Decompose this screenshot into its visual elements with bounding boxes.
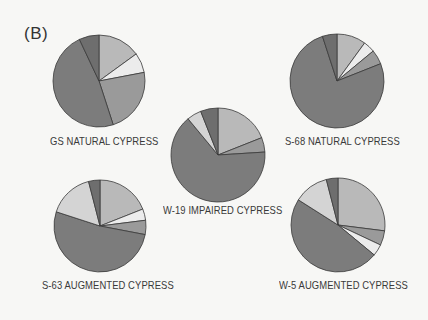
pie-chart	[53, 35, 145, 127]
pie-chart	[54, 180, 146, 272]
chart-title-s63-augmented: S-63 AUGMENTED CYPRESS	[42, 279, 174, 291]
chart-title-w5-augmented: W-5 AUGMENTED CYPRESS	[279, 279, 408, 291]
pie-chart	[171, 108, 265, 202]
pie-slice	[338, 178, 385, 231]
chart-title-w19-impaired: W-19 IMPAIRED CYPRESS	[163, 204, 282, 216]
chart-title-s68-natural: S-68 NATURAL CYPRESS	[285, 135, 400, 147]
pie-chart	[290, 34, 384, 128]
pie-charts-canvas	[0, 0, 428, 320]
pie-chart-figure: (B) GS NATURAL CYPRESS S-68 NATURAL CYPR…	[0, 0, 428, 320]
pie-chart	[291, 178, 385, 272]
chart-title-gs-natural: GS NATURAL CYPRESS	[50, 135, 158, 147]
